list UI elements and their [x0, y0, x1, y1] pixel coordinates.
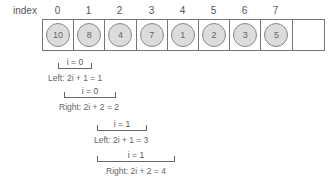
array-cell: 8	[74, 20, 105, 50]
index-4: 4	[167, 5, 198, 16]
heap-node: 1	[171, 23, 195, 47]
array-cell: 4	[105, 20, 136, 50]
heap-node: 5	[264, 23, 288, 47]
formula-right: Right: 2i + 2 = 2	[59, 102, 119, 112]
heap-node: 4	[108, 23, 132, 47]
formula-left: Left: 2i + 1 = 1	[48, 73, 102, 83]
array-cell: 5	[261, 20, 292, 50]
formula-right: Right: 2i + 2 = 4	[106, 166, 166, 176]
heap-array: 10 8 4 7 1 2 3 5	[42, 19, 325, 51]
array-cell: 10	[43, 20, 74, 50]
array-cell: 3	[230, 20, 261, 50]
index-2: 2	[104, 5, 135, 16]
heap-node: 3	[233, 23, 257, 47]
array-cell: 7	[137, 20, 168, 50]
bracket	[64, 92, 116, 98]
bracket	[58, 63, 92, 69]
index-3: 3	[136, 5, 167, 16]
bracket	[97, 156, 175, 162]
array-cell-empty	[293, 20, 324, 50]
index-7: 7	[260, 5, 291, 16]
index-0: 0	[42, 5, 73, 16]
index-6: 6	[229, 5, 260, 16]
heap-node: 8	[77, 23, 101, 47]
array-cell: 2	[199, 20, 230, 50]
heap-node: 7	[140, 23, 164, 47]
bracket	[97, 125, 147, 131]
index-5: 5	[198, 5, 229, 16]
heap-node: 2	[202, 23, 226, 47]
index-1: 1	[73, 5, 104, 16]
index-label: index	[13, 5, 37, 16]
heap-node: 10	[46, 23, 70, 47]
array-cell: 1	[168, 20, 199, 50]
formula-left: Left: 2i + 1 = 3	[94, 135, 148, 145]
